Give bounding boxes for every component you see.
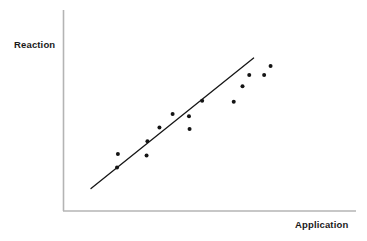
- data-point: [171, 112, 175, 116]
- y-axis-label: Reaction: [14, 39, 55, 50]
- data-point: [188, 127, 192, 131]
- axes-group: [63, 10, 356, 211]
- data-point: [269, 64, 273, 68]
- data-point: [157, 125, 161, 129]
- scatter-plot-figure: Reaction Application: [0, 0, 367, 241]
- plot-canvas: [0, 0, 367, 241]
- data-point: [241, 84, 245, 88]
- data-point: [247, 73, 251, 77]
- x-axis-label: Application: [295, 219, 348, 230]
- data-point: [116, 152, 120, 156]
- data-point: [145, 154, 149, 158]
- trend-line: [91, 58, 254, 188]
- data-point: [187, 114, 191, 118]
- data-point: [232, 100, 236, 104]
- data-point: [262, 73, 266, 77]
- data-series-group: [91, 58, 273, 188]
